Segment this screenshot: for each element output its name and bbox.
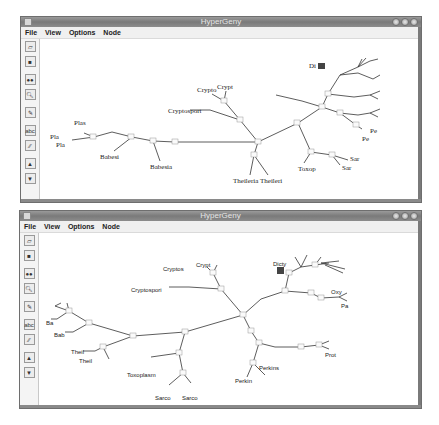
link-icon: ∕∕ (28, 337, 30, 343)
up-button[interactable]: ▲ (24, 352, 35, 363)
label-sar-1[interactable]: Sar (350, 155, 360, 163)
link-icon: ∕∕ (29, 143, 31, 149)
label-pla-1[interactable]: Pla (50, 133, 60, 141)
preview-icon: 🔍︎ (26, 91, 34, 98)
menu-options[interactable]: Options (68, 221, 94, 232)
abc-button[interactable]: abc (24, 319, 35, 330)
label-cryptos[interactable]: Cryptos (163, 266, 184, 272)
window-title: HyperGeny (20, 211, 421, 221)
menu-node[interactable]: Node (103, 27, 121, 38)
label-perkins[interactable]: Perkins (259, 365, 279, 371)
down-button[interactable]: ▼ (25, 173, 36, 184)
label-pe-1[interactable]: Pe (370, 127, 377, 135)
label-theileri[interactable]: Theileri (260, 177, 282, 185)
find-button[interactable]: ●● (25, 74, 36, 85)
label-pa[interactable]: Pa (341, 303, 349, 309)
phylogeny-tree[interactable]: Plas Pla Pla Babesi Babesia Theileria Th… (40, 39, 421, 201)
label-dicty[interactable]: Dicty (273, 261, 286, 267)
label-sarco-1[interactable]: Sarco (155, 395, 171, 401)
menu-view[interactable]: View (45, 27, 61, 38)
binoculars-icon: ●● (25, 271, 32, 277)
window-title: HyperGeny (21, 17, 421, 27)
abc-icon: abc (24, 322, 34, 328)
edit-button[interactable]: ✎ (25, 107, 36, 118)
open-button[interactable]: ▱ (25, 41, 36, 52)
binoculars-icon: ●● (26, 77, 33, 83)
preview-button[interactable]: 🔍︎ (24, 283, 35, 294)
preview-icon: 🔍︎ (25, 285, 33, 292)
title-bar[interactable]: HyperGeny (20, 211, 421, 221)
label-toxop[interactable]: Toxop (298, 165, 316, 173)
label-plas[interactable]: Plas (74, 119, 86, 127)
close-button[interactable] (410, 18, 418, 26)
label-babesi[interactable]: Babesi (100, 153, 119, 161)
open-button[interactable]: ▱ (24, 235, 35, 246)
label-sar-2[interactable]: Sar (342, 164, 352, 172)
find-button[interactable]: ●● (24, 268, 35, 279)
window-border (418, 27, 421, 202)
maximize-button[interactable] (401, 18, 409, 26)
save-button[interactable]: ■ (25, 56, 36, 67)
title-bar[interactable]: HyperGeny (21, 17, 421, 27)
down-arrow-icon: ▼ (27, 176, 33, 182)
edit-icon: ✎ (27, 303, 32, 310)
label-sarco-2[interactable]: Sarco (182, 395, 198, 401)
label-toxoplasm[interactable]: Toxoplasm (127, 372, 156, 378)
label-theil-1[interactable]: Theil (71, 349, 84, 355)
label-di[interactable]: Di (309, 62, 316, 70)
open-icon: ▱ (28, 43, 33, 50)
close-button[interactable] (410, 212, 418, 220)
label-pe-2[interactable]: Pe (362, 135, 369, 143)
menu-node[interactable]: Node (102, 221, 120, 232)
up-arrow-icon: ▲ (27, 161, 33, 167)
tree-canvas[interactable]: Plas Pla Pla Babesi Babesia Theileria Th… (39, 39, 418, 199)
menu-view[interactable]: View (44, 221, 60, 232)
label-perkin[interactable]: Perkin (235, 378, 252, 384)
edit-button[interactable]: ✎ (24, 301, 35, 312)
menu-file[interactable]: File (25, 27, 37, 38)
preview-button[interactable]: 🔍︎ (25, 89, 36, 100)
abc-button[interactable]: abc (25, 125, 36, 136)
open-icon: ▱ (27, 237, 32, 244)
up-button[interactable]: ▲ (25, 158, 36, 169)
label-babesia[interactable]: Babesia (150, 163, 173, 171)
maximize-button[interactable] (401, 212, 409, 220)
window-border (20, 405, 421, 408)
up-arrow-icon: ▲ (26, 355, 32, 361)
edit-icon: ✎ (28, 109, 33, 116)
toolbar: ▱ ■ ●● 🔍︎ ✎ abc ∕∕ ▲ ▼ (23, 41, 37, 199)
window-border (21, 199, 421, 202)
menu-file[interactable]: File (24, 221, 36, 232)
minimize-button[interactable] (392, 18, 400, 26)
link-button[interactable]: ∕∕ (25, 140, 36, 151)
label-pla-2[interactable]: Pla (56, 141, 66, 149)
selected-node-marker[interactable] (277, 267, 284, 274)
label-bab[interactable]: Bab (54, 332, 65, 338)
label-prot[interactable]: Prot (325, 352, 336, 358)
window-border (418, 221, 421, 408)
label-theileria[interactable]: Theileria (233, 177, 259, 185)
menu-options[interactable]: Options (69, 27, 95, 38)
label-oxy[interactable]: Oxy (331, 289, 342, 295)
label-crypt[interactable]: Crypt (217, 83, 233, 91)
abc-icon: abc (25, 128, 35, 134)
label-crypto[interactable]: Crypto (197, 86, 217, 94)
label-cryptosport[interactable]: Cryptosport (168, 107, 202, 115)
link-button[interactable]: ∕∕ (24, 334, 35, 345)
down-arrow-icon: ▼ (26, 370, 32, 376)
label-crypt[interactable]: Crypt (196, 262, 211, 268)
minimize-button[interactable] (392, 212, 400, 220)
label-theil-2[interactable]: Theil (79, 358, 92, 364)
hypergeny-window-top: HyperGeny File View Options Node ▱ ■ ●● … (20, 16, 422, 203)
label-cryptospori[interactable]: Cryptospori (131, 287, 162, 293)
tree-canvas[interactable]: Ba Bab Theil Theil Toxoplasm Sarco Sarco… (38, 233, 418, 405)
phylogeny-tree[interactable]: Ba Bab Theil Theil Toxoplasm Sarco Sarco… (39, 233, 421, 407)
label-ba[interactable]: Ba (46, 320, 54, 326)
save-icon: ■ (27, 253, 31, 259)
toolbar: ▱ ■ ●● 🔍︎ ✎ abc ∕∕ ▲ ▼ (22, 235, 36, 405)
hypergeny-window-bottom: HyperGeny File View Options Node ▱ ■ ●● … (19, 210, 422, 409)
save-button[interactable]: ■ (24, 250, 35, 261)
down-button[interactable]: ▼ (24, 367, 35, 378)
selected-node-marker[interactable] (318, 63, 325, 69)
save-icon: ■ (28, 59, 32, 65)
